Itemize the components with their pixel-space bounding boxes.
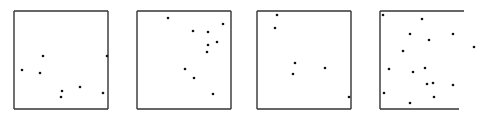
data-point (60, 96, 63, 99)
data-point (167, 17, 170, 20)
data-point (276, 14, 279, 17)
data-point (452, 33, 455, 36)
data-point (324, 67, 327, 70)
data-point (294, 62, 297, 65)
data-point (106, 55, 109, 58)
data-point (212, 93, 215, 96)
scatter-panels (0, 0, 483, 117)
data-point (216, 41, 219, 44)
data-point (207, 31, 210, 34)
scatter-panel-3 (257, 11, 351, 109)
data-point (382, 14, 385, 17)
data-point (184, 68, 187, 71)
data-point (402, 50, 405, 53)
data-point (412, 71, 415, 74)
data-point (433, 96, 436, 99)
data-point (207, 44, 210, 47)
data-point (432, 82, 435, 85)
data-point (192, 30, 195, 33)
data-point (348, 96, 351, 99)
data-point (206, 51, 209, 54)
data-point (421, 18, 424, 21)
data-point (193, 77, 196, 80)
data-point (102, 92, 105, 95)
data-point (383, 92, 386, 95)
data-point (428, 39, 431, 42)
data-point (473, 46, 476, 49)
data-point (42, 55, 45, 58)
data-point (409, 33, 412, 36)
data-point (409, 102, 412, 105)
data-point (222, 23, 225, 26)
scatter-panel-4 (380, 11, 475, 109)
data-point (426, 83, 429, 86)
data-point (388, 68, 391, 71)
data-point (452, 84, 455, 87)
data-point (274, 27, 277, 30)
scatter-panel-2 (137, 11, 231, 109)
data-point (424, 67, 427, 70)
scatter-panel-1 (14, 11, 108, 109)
data-point (292, 73, 295, 76)
data-point (79, 86, 82, 89)
data-point (61, 90, 64, 93)
data-point (21, 69, 24, 72)
data-point (39, 72, 42, 75)
